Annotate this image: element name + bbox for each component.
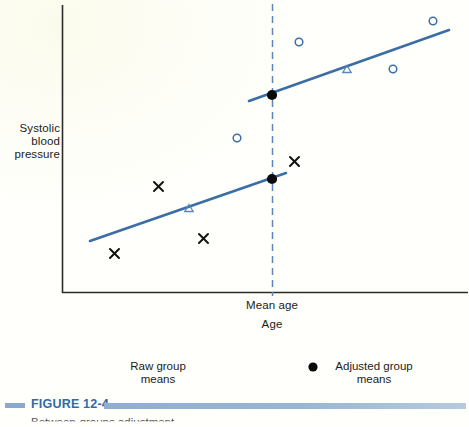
filled-dot-marker-lower xyxy=(267,174,277,184)
y-axis-label-line-1: Systolic xyxy=(8,122,60,135)
circle-open-marker xyxy=(389,65,397,73)
legend-raw-label-line-1: Raw group xyxy=(110,360,206,373)
x-axis-label: Age xyxy=(232,318,312,331)
raw-group-mean-markers xyxy=(185,66,351,212)
upper-group-regression-line xyxy=(249,30,449,101)
upper-group-circle-markers xyxy=(233,17,437,142)
footer-rule-right xyxy=(104,403,466,409)
legend-item-raw-group-means: Raw group means xyxy=(110,360,206,386)
circle-open-marker xyxy=(295,38,303,46)
x-marker xyxy=(199,234,208,243)
x-marker xyxy=(290,157,299,166)
y-axis-label-line-3: pressure xyxy=(8,148,60,161)
circle-open-marker xyxy=(233,134,241,142)
legend-raw-label-line-2: means xyxy=(110,373,206,386)
figure-number-label: FIGURE 12-4 xyxy=(31,397,109,411)
figure-12-4: Systolic blood pressure Mean age Age Raw… xyxy=(0,0,469,427)
lower-group-x-markers xyxy=(110,157,299,258)
legend-adjusted-label-line-1: Adjusted group xyxy=(322,360,426,373)
plot-axes xyxy=(62,5,468,293)
filled-dot-marker-upper xyxy=(267,90,277,100)
footer-rule-left xyxy=(5,403,25,408)
legend-adjusted-label-line-2: means xyxy=(322,373,426,386)
x-axis-tick-label-mean-age: Mean age xyxy=(232,299,312,312)
figure-caption: Between-groups adjustment. xyxy=(31,416,177,427)
figure-footer: FIGURE 12-4 Between-groups adjustment. xyxy=(0,396,469,427)
x-marker xyxy=(154,182,163,191)
y-axis-label: Systolic blood pressure xyxy=(8,122,60,161)
legend-item-adjusted-group-means: Adjusted group means xyxy=(322,360,426,386)
legend-adjusted-dot-icon xyxy=(308,362,317,371)
circle-open-marker xyxy=(429,17,437,25)
y-axis-label-line-2: blood xyxy=(8,135,60,148)
x-marker xyxy=(110,249,119,258)
